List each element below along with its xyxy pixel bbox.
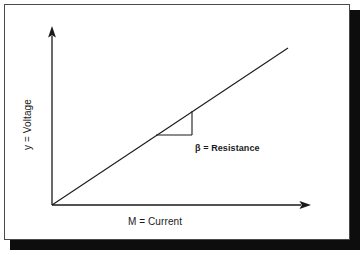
x-axis-arrowhead-icon xyxy=(300,201,312,209)
regression-line xyxy=(52,48,288,205)
slope-triangle xyxy=(156,111,192,135)
y-axis xyxy=(48,26,56,205)
x-axis-title: M = Current xyxy=(5,216,305,227)
y-axis-arrowhead-icon xyxy=(48,26,56,38)
slope-annotation-label: β = Resistance xyxy=(195,143,260,153)
figure-root: β = Resistance M = Current y = Voltage xyxy=(0,0,364,255)
x-axis xyxy=(52,201,311,209)
figure-frame: β = Resistance M = Current y = Voltage xyxy=(4,4,350,240)
plot-area xyxy=(5,5,349,239)
y-axis-title: y = Voltage xyxy=(22,65,33,185)
